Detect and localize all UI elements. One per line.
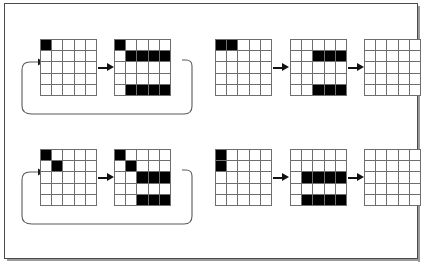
cell-filled[interactable] (149, 51, 160, 62)
cell-empty[interactable] (376, 51, 387, 62)
cell-empty[interactable] (75, 150, 86, 161)
cell-empty[interactable] (365, 161, 376, 172)
cell-empty[interactable] (126, 150, 137, 161)
cell-filled[interactable] (336, 195, 347, 206)
cell-empty[interactable] (302, 62, 313, 73)
cell-filled[interactable] (227, 40, 238, 51)
cell-filled[interactable] (336, 51, 347, 62)
cell-empty[interactable] (410, 74, 421, 85)
cell-empty[interactable] (291, 51, 302, 62)
cell-filled[interactable] (126, 85, 137, 96)
cell-empty[interactable] (365, 74, 376, 85)
cell-empty[interactable] (410, 40, 421, 51)
cell-empty[interactable] (126, 74, 137, 85)
cell-empty[interactable] (75, 62, 86, 73)
cell-filled[interactable] (137, 51, 148, 62)
cell-empty[interactable] (216, 85, 227, 96)
cell-empty[interactable] (238, 195, 249, 206)
cell-empty[interactable] (227, 85, 238, 96)
cell-empty[interactable] (365, 150, 376, 161)
cell-filled[interactable] (41, 150, 52, 161)
cell-empty[interactable] (238, 40, 249, 51)
cell-filled[interactable] (325, 195, 336, 206)
cell-empty[interactable] (399, 150, 410, 161)
cell-empty[interactable] (75, 161, 86, 172)
cell-empty[interactable] (52, 184, 63, 195)
cell-empty[interactable] (238, 150, 249, 161)
cell-empty[interactable] (250, 74, 261, 85)
cell-empty[interactable] (160, 40, 171, 51)
cell-empty[interactable] (365, 195, 376, 206)
cell-empty[interactable] (376, 150, 387, 161)
cell-empty[interactable] (250, 150, 261, 161)
cell-empty[interactable] (325, 184, 336, 195)
cell-empty[interactable] (227, 195, 238, 206)
cell-empty[interactable] (75, 85, 86, 96)
cell-empty[interactable] (261, 85, 272, 96)
cell-empty[interactable] (376, 172, 387, 183)
cell-empty[interactable] (399, 195, 410, 206)
cell-filled[interactable] (313, 51, 324, 62)
cell-empty[interactable] (41, 51, 52, 62)
cell-empty[interactable] (126, 172, 137, 183)
cell-empty[interactable] (365, 184, 376, 195)
cell-empty[interactable] (261, 62, 272, 73)
cell-empty[interactable] (52, 172, 63, 183)
cell-empty[interactable] (261, 172, 272, 183)
cell-empty[interactable] (227, 172, 238, 183)
cell-empty[interactable] (250, 62, 261, 73)
cell-empty[interactable] (365, 85, 376, 96)
cell-empty[interactable] (291, 85, 302, 96)
cell-empty[interactable] (387, 195, 398, 206)
cell-empty[interactable] (365, 172, 376, 183)
cell-filled[interactable] (325, 172, 336, 183)
cell-empty[interactable] (291, 150, 302, 161)
cell-empty[interactable] (387, 150, 398, 161)
cell-empty[interactable] (238, 85, 249, 96)
cell-filled[interactable] (160, 51, 171, 62)
cell-empty[interactable] (86, 195, 97, 206)
cell-empty[interactable] (302, 40, 313, 51)
cell-empty[interactable] (387, 40, 398, 51)
cell-empty[interactable] (115, 195, 126, 206)
cell-empty[interactable] (261, 74, 272, 85)
cell-empty[interactable] (160, 161, 171, 172)
cell-empty[interactable] (63, 184, 74, 195)
cell-empty[interactable] (41, 195, 52, 206)
cell-empty[interactable] (387, 161, 398, 172)
cell-empty[interactable] (313, 40, 324, 51)
cell-empty[interactable] (75, 74, 86, 85)
cell-filled[interactable] (160, 172, 171, 183)
cell-filled[interactable] (216, 150, 227, 161)
cell-empty[interactable] (86, 85, 97, 96)
cell-empty[interactable] (52, 51, 63, 62)
cell-empty[interactable] (336, 150, 347, 161)
cell-empty[interactable] (302, 184, 313, 195)
cell-empty[interactable] (149, 184, 160, 195)
cell-empty[interactable] (387, 62, 398, 73)
cell-empty[interactable] (149, 74, 160, 85)
cell-empty[interactable] (227, 150, 238, 161)
cell-empty[interactable] (399, 184, 410, 195)
cell-empty[interactable] (399, 161, 410, 172)
cell-empty[interactable] (115, 184, 126, 195)
cell-empty[interactable] (41, 62, 52, 73)
cell-empty[interactable] (75, 51, 86, 62)
cell-empty[interactable] (238, 62, 249, 73)
cell-empty[interactable] (376, 40, 387, 51)
cell-empty[interactable] (302, 74, 313, 85)
cell-empty[interactable] (313, 150, 324, 161)
cell-empty[interactable] (325, 40, 336, 51)
cell-empty[interactable] (410, 85, 421, 96)
state-grid[interactable] (114, 149, 171, 206)
state-grid[interactable] (364, 149, 421, 206)
cell-empty[interactable] (302, 161, 313, 172)
cell-empty[interactable] (410, 62, 421, 73)
cell-filled[interactable] (149, 85, 160, 96)
cell-empty[interactable] (325, 62, 336, 73)
cell-empty[interactable] (250, 195, 261, 206)
cell-filled[interactable] (149, 195, 160, 206)
cell-empty[interactable] (227, 161, 238, 172)
cell-filled[interactable] (126, 51, 137, 62)
cell-empty[interactable] (115, 161, 126, 172)
